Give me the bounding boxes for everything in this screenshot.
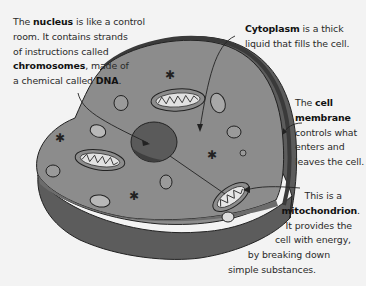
mitochondrion-label-line: This is a [190, 189, 360, 204]
vesicle [227, 126, 241, 138]
nucleus-label-line: The nucleus is like a control [13, 15, 145, 30]
nucleus-label: The nucleus is like a control room. It c… [13, 15, 145, 89]
svg-text:✱: ✱ [55, 131, 65, 145]
nucleus-label-line: of instructions called [13, 45, 145, 60]
cell-membrane-label-line: The cell [295, 96, 364, 111]
vesicle [240, 150, 246, 156]
svg-text:✱: ✱ [129, 189, 139, 203]
cell-membrane-label-line: membrane [295, 111, 364, 126]
vesicle [160, 175, 172, 189]
mitochondrion-label: This is a mitochondrion. It provides the… [190, 189, 360, 278]
vesicle [114, 96, 128, 111]
cell-membrane-label-line: controls what [295, 126, 364, 141]
mitochondrion-label-line: It provides the [190, 219, 360, 234]
cell-diagram: ✱ ✱ ✱ ✱ The nucleus is like a control ro… [0, 0, 366, 286]
svg-text:✱: ✱ [207, 148, 217, 162]
cell-membrane-label-line: leaves the cell. [295, 155, 364, 170]
nucleus-label-line: room. It contains strands [13, 30, 145, 45]
mitochondrion-label-line: simple substances. [190, 263, 360, 278]
mitochondrion-label-line: mitochondrion. [190, 204, 360, 219]
mitochondrion-label-line: cell with energy, [190, 233, 360, 248]
svg-text:✱: ✱ [165, 68, 175, 82]
nucleus-label-line: chromosomes, made of [13, 59, 145, 74]
nucleus-label-line: a chemical called DNA. [13, 74, 145, 89]
cytoplasm-label-line: Cytoplasm is a thick [245, 22, 349, 37]
cytoplasm-label: Cytoplasm is a thick liquid that fills t… [245, 22, 349, 52]
vesicle [46, 165, 60, 177]
cell-membrane-label: The cell membrane controls what enters a… [295, 96, 364, 170]
cell-membrane-label-line: enters and [295, 140, 364, 155]
mitochondrion-label-line: by breaking down [190, 248, 360, 263]
cytoplasm-label-line: liquid that fills the cell. [245, 37, 349, 52]
